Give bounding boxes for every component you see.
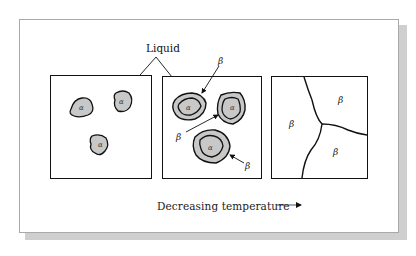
alpha-label: α xyxy=(79,104,84,112)
alpha-label: α xyxy=(119,98,124,106)
beta-label: β xyxy=(337,95,343,105)
alpha-label: α xyxy=(230,104,235,112)
panel-3-beta-grains: β β β xyxy=(272,77,368,179)
beta-label: β xyxy=(244,161,250,171)
alpha-label: α xyxy=(98,141,103,149)
beta-label: β xyxy=(288,119,294,129)
beta-label: β xyxy=(217,56,223,66)
panel-1-liquid-with-alpha: α α α xyxy=(51,76,152,179)
panel-2-alpha-with-beta-shell: α α α β β β xyxy=(163,56,262,179)
caption-decreasing-temperature: Decreasing temperature xyxy=(157,200,290,212)
alpha-label: α xyxy=(208,144,213,152)
beta-label: β xyxy=(175,132,181,142)
microstructure-diagram: Liquid α α α α α α β β β xyxy=(0,0,416,256)
alpha-label: α xyxy=(186,104,191,112)
liquid-label: Liquid xyxy=(146,42,180,54)
beta-label: β xyxy=(332,147,338,157)
